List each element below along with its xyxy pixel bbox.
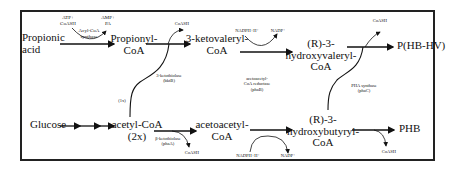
node-propionyl-coa: Propionyl- CoA <box>110 33 157 56</box>
cofactor-nadp-top: NADP⁺ <box>271 28 286 33</box>
cofactor-label: ATP+ <box>60 15 76 21</box>
enzyme-label: Acyl-CoA <box>79 28 100 34</box>
node-acetoacetyl-coa: acetoacetyl- CoA <box>195 119 248 142</box>
node-label: CoA <box>286 61 357 73</box>
enzyme-label: synthase <box>79 34 100 40</box>
enzyme-beta-ketothiolase-phaa: β-ketothiolase (phaA) <box>155 136 181 147</box>
cofactor-label: PA <box>101 21 115 27</box>
cofactor-nadph-bottom: NADPH+H⁺ <box>236 153 260 158</box>
cofactor-nadph-top: NADPH+H⁺ <box>235 28 259 33</box>
node-label: CoA <box>287 137 359 149</box>
cofactor-coash-bottom-1: CoASH <box>185 150 199 155</box>
node-label: (R)-3- <box>287 114 359 126</box>
cofactor-coash-bottom-2: CoASH <box>382 149 396 154</box>
node-label: CoA <box>186 45 248 57</box>
node-label: CoA <box>110 45 157 57</box>
node-label: Propionic <box>22 32 65 44</box>
node-label: acid <box>22 44 65 56</box>
cofactor-amp-pa: AMP+ PA <box>101 15 115 27</box>
node-label: CoA <box>195 131 248 143</box>
enzyme-acetoacetyl-coa-reductase: acetoacetyl- CoA reductase (phaB) <box>244 76 270 92</box>
node-3-ketovaleryl-coa: 3-ketovaleryl- CoA <box>186 33 248 56</box>
enzyme-label: (bktB) <box>156 78 182 83</box>
node-hydroxyvaleryl-coa: (R)-3- hydroxyvaleryl- CoA <box>286 38 357 73</box>
node-phb: PHB <box>399 123 420 135</box>
cofactor-label: CoASH <box>60 21 76 27</box>
cofactor-atp-coash: ATP+ CoASH <box>60 15 76 27</box>
node-label: (R)-3- <box>286 38 357 50</box>
enzyme-acyl-coa-synthase: Acyl-CoA synthase <box>79 28 100 40</box>
enzyme-label: (phaA) <box>155 141 181 146</box>
enzyme-label: (phaC) <box>351 88 376 93</box>
cofactor-label: AMP+ <box>101 15 115 21</box>
enzyme-3-ketothiolase-bktb: 3-ketothiolase (bktB) <box>156 73 182 84</box>
node-glucose: Glucose <box>30 119 66 131</box>
cofactor-coash-top-1: CoASH <box>175 21 189 26</box>
enzyme-label: (phaB) <box>244 87 270 92</box>
enzyme-label: CoA reductase <box>244 81 270 86</box>
node-label: acetoacetyl- <box>195 119 248 131</box>
node-label: Propionyl- <box>110 33 157 45</box>
node-propionic-acid: Propionic acid <box>22 32 65 55</box>
node-phbhv: P(HB-HV) <box>397 40 445 52</box>
node-label: acetyl-CoA <box>112 119 163 131</box>
node-label: 3-ketovaleryl- <box>186 33 248 45</box>
node-hydroxybutyryl-coa: (R)-3- hydroxybutyryl- CoA <box>287 114 359 149</box>
cofactor-nadp-bottom: NADP⁺ <box>281 153 296 158</box>
cofactor-coash-top-2: CoASH <box>373 18 387 23</box>
enzyme-pha-synthase: PHA synthase (phaC) <box>351 83 376 94</box>
annotation-1x: (1x) <box>118 98 126 103</box>
